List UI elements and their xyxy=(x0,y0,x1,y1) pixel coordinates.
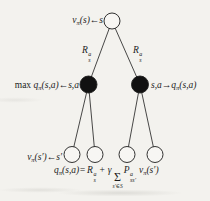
eq-value-args: (s′) xyxy=(146,165,158,175)
next-state-node-2 xyxy=(87,147,103,163)
edge-left-action-to-state2 xyxy=(89,85,96,155)
edge-right-action-to-state4 xyxy=(140,85,155,155)
eq-transition-scripts: ass′ xyxy=(130,171,136,183)
next-state-node-3 xyxy=(119,147,135,163)
reward-label-right: Ras xyxy=(133,44,142,63)
right-action-label: s,a→qπ(s,a) xyxy=(151,79,197,94)
reward-subscript: s xyxy=(88,57,91,63)
reward-subscript: s xyxy=(139,57,142,63)
label-rest: (s′)←s′ xyxy=(35,152,62,162)
right-action-node xyxy=(132,76,149,93)
summation: Σs′∈S xyxy=(113,172,123,189)
reward-label-left: Ras xyxy=(82,44,91,63)
edge-root-to-left-action xyxy=(89,21,113,85)
transition-subscript: ss′ xyxy=(130,177,136,183)
label-rest: (s,a)←s,a xyxy=(42,80,79,90)
edge-right-action-to-state3 xyxy=(127,85,140,155)
reward-subscript: s xyxy=(93,177,96,183)
eq-reward-symbol: R xyxy=(87,165,93,175)
edge-left-action-to-state1 xyxy=(72,85,89,155)
eq-reward-scripts: as xyxy=(93,171,96,183)
reward-symbol: R xyxy=(82,45,88,55)
next-state-node-4 xyxy=(147,147,163,163)
root-state-node xyxy=(104,13,120,29)
sigma-underscript: s′∈S xyxy=(113,183,123,189)
plus-operator: + xyxy=(99,165,104,175)
sigma-symbol: Σ xyxy=(114,172,121,183)
scanned-backup-diagram-figure: vπ(s)←s Ras Ras max qπ(s,a)←s,a s,a→qπ(s… xyxy=(0,0,210,201)
label-rest: (s)←s xyxy=(80,15,103,25)
label-pre: s,a→q xyxy=(151,80,176,90)
left-action-node xyxy=(80,76,97,93)
bellman-equation: qπ(s,a)=Ras+γΣs′∈SPass′vπ(s′) xyxy=(54,164,159,189)
reward-scripts: as xyxy=(88,51,91,63)
root-state-label: vπ(s)←s xyxy=(72,14,103,29)
reward-scripts: as xyxy=(139,51,142,63)
eq-lhs-rest: (s,a)= xyxy=(62,165,86,175)
max-operator: max xyxy=(15,80,34,90)
eq-transition-symbol: P xyxy=(124,165,130,175)
gamma-symbol: γ xyxy=(108,165,112,175)
left-action-label: max qπ(s,a)←s,a xyxy=(15,79,79,94)
reward-symbol: R xyxy=(133,45,139,55)
label-rest: (s,a) xyxy=(179,80,196,90)
next-state-node-1 xyxy=(64,147,80,163)
